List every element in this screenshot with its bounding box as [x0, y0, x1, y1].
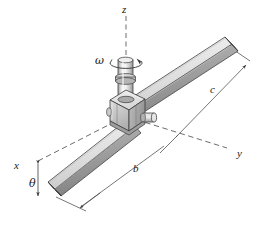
angle-theta-label: θ: [29, 177, 36, 190]
figure-canvas: z y x ω θ b c: [0, 0, 268, 236]
angular-velocity-label: ω: [95, 54, 104, 67]
shaft-flange-bottom: [116, 78, 136, 85]
axis-y-label: y: [236, 147, 242, 159]
bar-lower-front-face: [55, 126, 141, 196]
collar-left-pin-stub: [107, 108, 112, 116]
dimension-b-label: b: [133, 162, 139, 174]
dimension-c-label: c: [210, 83, 215, 95]
shaft-top-cap: [118, 57, 133, 63]
collar-side-pin: [141, 113, 157, 122]
axis-x-label: x: [13, 159, 19, 171]
collar-shaft-bore: [118, 96, 134, 102]
axis-z-label: z: [121, 3, 127, 15]
mechanics-figure: z y x ω θ b c: [0, 0, 268, 236]
